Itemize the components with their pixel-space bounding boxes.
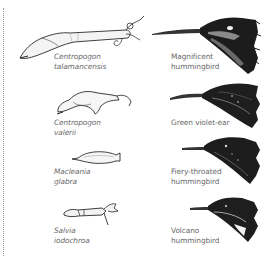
flower-genus: Macleania [54, 167, 90, 177]
bird-name-line1: Magnificent [171, 52, 219, 62]
flower-genus: Salvia [54, 226, 90, 236]
bird-label-2: Green violet-ear [171, 118, 229, 128]
flower-label-3: Macleania glabra [54, 167, 90, 187]
dotted-left-border [3, 8, 4, 256]
flower-label-2: Centropogon valerii [54, 118, 101, 138]
bird-label-1: Magnificent hummingbird [171, 52, 219, 72]
bird-name-line1: Fiery-throated [171, 167, 222, 177]
bird-name-line2: hummingbird [171, 236, 219, 246]
bird-name-line1: Volcano [171, 226, 219, 236]
flower-species: iodochroa [54, 236, 90, 246]
flower-label-1: Centropogon talamancensis [54, 52, 106, 72]
salvia-iodochroa-flower-illustration [62, 199, 120, 229]
bird-label-3: Fiery-throated hummingbird [171, 167, 222, 187]
bird-name-line1: Green violet-ear [171, 118, 229, 128]
flower-species: valerii [54, 128, 101, 138]
macleania-glabra-flower-illustration [70, 149, 122, 167]
bird-name-line2: hummingbird [171, 62, 219, 72]
centropogon-valerii-flower-illustration [55, 84, 135, 118]
bird-name-line2: hummingbird [171, 177, 222, 187]
flower-genus: Centropogon [54, 52, 106, 62]
flower-genus: Centropogon [54, 118, 101, 128]
flower-label-4: Salvia iodochroa [54, 226, 90, 246]
flower-hummingbird-figure: Centropogon talamancensis Magnificent hu… [0, 0, 277, 256]
flower-species: glabra [54, 177, 90, 187]
bird-label-4: Volcano hummingbird [171, 226, 219, 246]
flower-species: talamancensis [54, 62, 106, 72]
